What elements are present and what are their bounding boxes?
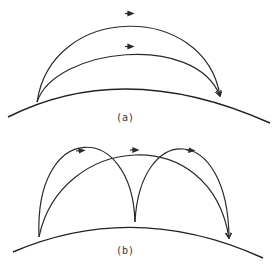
panel-label-a: (a) bbox=[116, 112, 134, 123]
trajectory-a-high bbox=[37, 26, 220, 102]
panel-label-b: (b) bbox=[116, 245, 134, 256]
trajectory-diagram: (a) (b) bbox=[0, 0, 276, 268]
ground-surface-b bbox=[13, 227, 263, 258]
trajectory-b-left-hop bbox=[39, 147, 135, 237]
trajectory-b-right-hop-arrow bbox=[186, 150, 192, 151]
trajectory-b-left-hop-arrow bbox=[76, 151, 82, 152]
ground-surface-a bbox=[8, 89, 270, 123]
trajectory-a-low bbox=[37, 54, 220, 102]
trajectory-b-long bbox=[39, 155, 229, 238]
panel-b: (b) bbox=[13, 147, 263, 258]
panel-a: (a) bbox=[8, 14, 270, 124]
trajectory-b-right-hop bbox=[135, 149, 229, 238]
